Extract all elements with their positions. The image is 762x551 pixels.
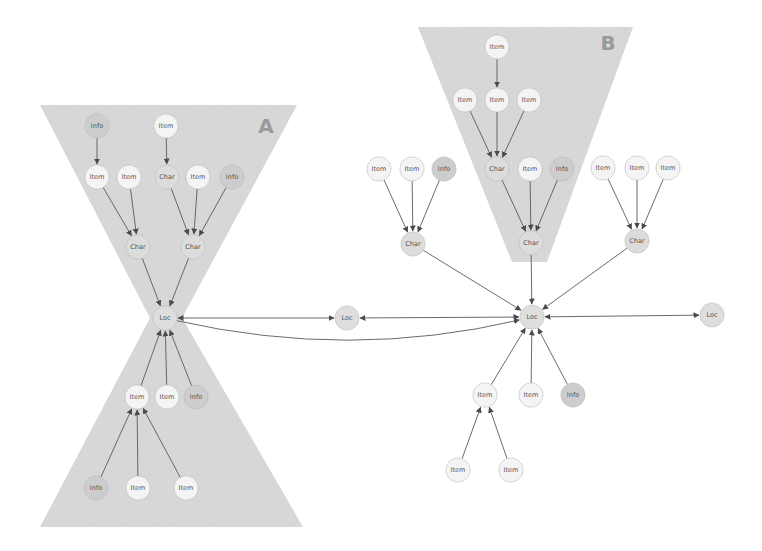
edge-a_item1-to-a_char1 xyxy=(166,138,167,164)
node-char[interactable]: Char xyxy=(485,157,509,181)
node-char[interactable]: Char xyxy=(519,231,543,255)
node-label: Item xyxy=(630,164,645,172)
node-label: Item xyxy=(122,173,137,181)
node-label: Char xyxy=(405,240,421,248)
node-item[interactable]: Item xyxy=(656,156,680,180)
node-item[interactable]: Item xyxy=(453,88,477,112)
node-label: Loc xyxy=(706,311,717,319)
node-loc[interactable]: Loc xyxy=(153,306,177,330)
node-info[interactable]: Info xyxy=(85,114,109,138)
node-item[interactable]: Item xyxy=(400,157,424,181)
node-label: Item xyxy=(458,96,473,104)
edge-r_item1-to-r_char xyxy=(608,179,631,229)
knowledge-graph-diagram: AB InfoItemItemItemCharItemInfoCharCharL… xyxy=(0,0,762,551)
edge-l_item1-to-l_char xyxy=(384,180,408,232)
node-label: Loc xyxy=(159,314,170,322)
node-label: Item xyxy=(191,173,206,181)
node-label: Item xyxy=(405,165,420,173)
node-item[interactable]: Item xyxy=(155,385,179,409)
node-item[interactable]: Item xyxy=(473,383,497,407)
node-char[interactable]: Char xyxy=(401,232,425,256)
region-label: A xyxy=(258,114,274,138)
edge-r_char-to-b_loc xyxy=(543,248,628,309)
node-label: Item xyxy=(179,484,194,492)
node-item[interactable]: Item xyxy=(154,114,178,138)
edge-b_char2-to-b_loc xyxy=(531,255,532,304)
edge-c_item3-to-c_item1 xyxy=(462,407,481,458)
node-info[interactable]: Info xyxy=(432,157,456,181)
node-label: Item xyxy=(160,393,175,401)
edge-l_item2-to-l_char xyxy=(412,181,413,231)
node-item[interactable]: Item xyxy=(85,165,109,189)
node-label: Item xyxy=(131,484,146,492)
node-label: Item xyxy=(504,466,519,474)
node-label: Item xyxy=(661,164,676,172)
edge-c_item1-to-b_loc xyxy=(491,328,525,385)
node-char[interactable]: Char xyxy=(181,235,205,259)
node-label: Info xyxy=(226,173,238,181)
edge-r_item3-to-r_char xyxy=(642,179,663,229)
edge-b_loc-to-f_loc xyxy=(545,315,699,317)
node-item[interactable]: Item xyxy=(625,156,649,180)
region-shape xyxy=(418,27,633,262)
node-label: Info xyxy=(190,393,202,401)
node-info[interactable]: Info xyxy=(561,383,585,407)
node-item[interactable]: Item xyxy=(518,157,542,181)
node-label: Char xyxy=(629,237,645,245)
node-label: Info xyxy=(90,484,102,492)
node-label: Item xyxy=(478,391,493,399)
node-info[interactable]: Info xyxy=(184,385,208,409)
node-item[interactable]: Item xyxy=(446,458,470,482)
edge-c_info1-to-b_loc xyxy=(538,329,567,385)
node-item[interactable]: Item xyxy=(174,476,198,500)
node-label: Loc xyxy=(341,314,352,322)
node-label: Info xyxy=(91,122,103,130)
node-item[interactable]: Item xyxy=(485,88,509,112)
node-label: Info xyxy=(438,165,450,173)
node-label: Info xyxy=(567,391,579,399)
node-label: Info xyxy=(556,165,568,173)
edge-m_loc-to-b_loc xyxy=(360,317,519,318)
node-loc[interactable]: Loc xyxy=(700,303,724,327)
node-label: Item xyxy=(159,122,174,130)
node-item[interactable]: Item xyxy=(125,385,149,409)
node-label: Item xyxy=(130,393,145,401)
node-label: Char xyxy=(159,173,175,181)
edge-c_item4-to-c_item1 xyxy=(489,407,507,458)
node-label: Item xyxy=(522,96,537,104)
node-label: Item xyxy=(451,466,466,474)
node-char[interactable]: Char xyxy=(126,235,150,259)
edge-l_char-to-b_loc xyxy=(423,250,521,310)
node-item[interactable]: Item xyxy=(117,165,141,189)
node-item[interactable]: Item xyxy=(517,88,541,112)
node-label: Item xyxy=(490,96,505,104)
node-info[interactable]: Info xyxy=(84,476,108,500)
node-label: Item xyxy=(90,173,105,181)
node-info[interactable]: Info xyxy=(220,165,244,189)
node-label: Item xyxy=(596,164,611,172)
node-item[interactable]: Item xyxy=(186,165,210,189)
edge-l_info1-to-l_char xyxy=(418,180,439,232)
node-label: Char xyxy=(130,243,146,251)
node-label: Item xyxy=(524,391,539,399)
node-item[interactable]: Item xyxy=(499,458,523,482)
node-label: Char xyxy=(185,243,201,251)
node-char[interactable]: Char xyxy=(625,229,649,253)
node-item[interactable]: Item xyxy=(367,157,391,181)
node-item[interactable]: Item xyxy=(519,383,543,407)
node-label: Item xyxy=(372,165,387,173)
node-item[interactable]: Item xyxy=(591,156,615,180)
region-label: B xyxy=(600,31,615,55)
node-info[interactable]: Info xyxy=(550,157,574,181)
node-label: Char xyxy=(523,239,539,247)
region-b: B xyxy=(418,27,633,262)
node-loc[interactable]: Loc xyxy=(335,306,359,330)
node-label: Item xyxy=(523,165,538,173)
node-loc[interactable]: Loc xyxy=(520,305,544,329)
node-char[interactable]: Char xyxy=(155,165,179,189)
node-item[interactable]: Item xyxy=(126,476,150,500)
regions-layer: AB xyxy=(40,27,633,527)
node-item[interactable]: Item xyxy=(485,35,509,59)
node-label: Loc xyxy=(526,313,537,321)
node-label: Char xyxy=(489,165,505,173)
